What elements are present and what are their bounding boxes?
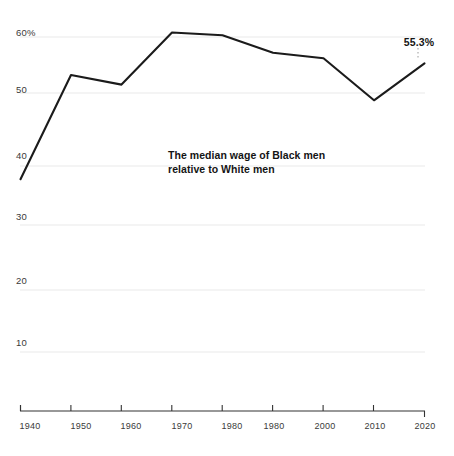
x-tick-label-2010: 2010 (365, 421, 386, 431)
end-value-callout: 55.3% (404, 36, 434, 48)
chart-container: 60% 50 40 30 20 10 1940 1950 1960 1970 1… (0, 0, 454, 456)
y-tick-label-10: 10 (16, 337, 27, 348)
y-tick-label-40: 40 (16, 150, 27, 161)
series-annotation: The median wage of Black men relative to… (168, 148, 325, 176)
y-tick-label-60: 60% (16, 27, 36, 38)
x-tick-label-1940: 1940 (20, 421, 41, 431)
x-tick-label-1960: 1960 (121, 421, 142, 431)
x-tick-label-1950: 1950 (71, 421, 92, 431)
series-annotation-line-1: The median wage of Black men (168, 148, 325, 162)
y-tick-label-20: 20 (16, 275, 27, 286)
x-tick-label-2020: 2020 (415, 421, 436, 431)
y-tick-label-50: 50 (16, 84, 27, 95)
line-chart-plot (0, 0, 454, 456)
x-tick-label-2000: 2000 (315, 421, 336, 431)
x-axis (20, 405, 425, 417)
gridlines (20, 37, 425, 352)
x-tick-label-1970: 1970 (172, 421, 193, 431)
series-annotation-line-2: relative to White men (168, 162, 325, 176)
x-tick-label-1980: 1980 (222, 421, 243, 431)
y-tick-label-30: 30 (16, 211, 27, 222)
x-tick-label-1990: 1980 (264, 421, 285, 431)
